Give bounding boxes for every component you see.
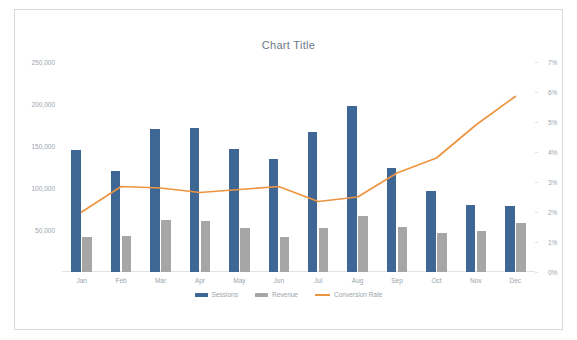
right-axis-tick-mark: [535, 272, 538, 273]
left-axis-tick-label: 250,000: [32, 59, 56, 66]
left-axis-tick-label: 50,000: [35, 227, 55, 234]
plot-area[interactable]: 50,000100,000150,000200,000250,000 0%1%2…: [62, 62, 535, 272]
right-axis-tick-mark: [535, 182, 538, 183]
legend-item[interactable]: Revenue: [255, 291, 298, 298]
right-axis-tick-mark: [535, 242, 538, 243]
legend-label: Revenue: [272, 291, 298, 298]
right-axis-tick-label: 1%: [548, 239, 557, 246]
legend-item[interactable]: Conversion Rate: [315, 291, 382, 298]
conversion-rate-line-series[interactable]: [62, 62, 535, 272]
left-axis-tick-label: 150,000: [32, 143, 56, 150]
chart-legend[interactable]: SessionsRevenueConversion Rate: [0, 291, 577, 298]
category-axis-label: Jan: [62, 277, 101, 284]
legend-label: Conversion Rate: [334, 291, 382, 298]
combo-chart[interactable]: Chart Title 50,000100,000150,000200,0002…: [0, 0, 577, 340]
right-axis-tick-label: 7%: [548, 59, 557, 66]
right-axis-tick-mark: [535, 122, 538, 123]
right-axis-tick-mark: [535, 152, 538, 153]
category-axis-label: Sep: [377, 277, 416, 284]
right-axis-tick-mark: [535, 62, 538, 63]
right-axis-tick-label: 0%: [548, 269, 557, 276]
right-axis-tick-label: 4%: [548, 149, 557, 156]
right-axis-tick-label: 6%: [548, 89, 557, 96]
right-axis-tick-label: 5%: [548, 119, 557, 126]
category-axis-label: Aug: [338, 277, 377, 284]
category-axis-label: Dec: [496, 277, 535, 284]
legend-swatch-icon: [315, 294, 330, 296]
right-axis-tick-label: 2%: [548, 209, 557, 216]
category-axis-label: Jul: [299, 277, 338, 284]
legend-label: Sessions: [212, 291, 238, 298]
left-axis-tick-label: 100,000: [32, 185, 56, 192]
conversion-rate-polyline: [82, 97, 516, 213]
category-axis-label: May: [220, 277, 259, 284]
category-axis-label: Mar: [141, 277, 180, 284]
category-axis-label: Jun: [259, 277, 298, 284]
legend-swatch-icon: [255, 293, 268, 297]
right-axis-tick-label: 3%: [548, 179, 557, 186]
left-axis-tick-label: 200,000: [32, 101, 56, 108]
right-axis-tick-mark: [535, 212, 538, 213]
right-axis-tick-mark: [535, 92, 538, 93]
legend-item[interactable]: Sessions: [195, 291, 238, 298]
category-axis-label: Apr: [180, 277, 219, 284]
chart-title[interactable]: Chart Title: [0, 39, 577, 51]
category-axis-label: Oct: [417, 277, 456, 284]
category-axis-label: Nov: [456, 277, 495, 284]
legend-swatch-icon: [195, 293, 208, 297]
category-axis-label: Feb: [101, 277, 140, 284]
